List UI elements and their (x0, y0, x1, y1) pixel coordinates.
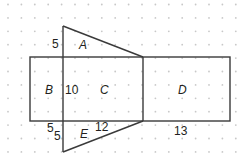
measure-e-height-1: 5 (47, 121, 54, 135)
region-label-a: A (78, 38, 87, 52)
measure-d-width: 13 (174, 124, 188, 138)
measure-a-height: 5 (52, 37, 59, 51)
dot-grid (7, 4, 237, 153)
region-label-d: D (178, 83, 187, 97)
rectangle-bcd (30, 57, 230, 121)
region-label-b: B (45, 83, 53, 97)
region-label-e: E (80, 127, 89, 141)
measure-e-height-2: 5 (54, 129, 61, 143)
triangle-a-hypotenuse (63, 26, 143, 57)
composite-figure-diagram: 5 A B 10 C D 5 5 E 12 13 (0, 0, 239, 164)
measure-e-base: 12 (95, 120, 109, 134)
measure-c-height: 10 (65, 83, 79, 97)
region-label-c: C (100, 83, 109, 97)
